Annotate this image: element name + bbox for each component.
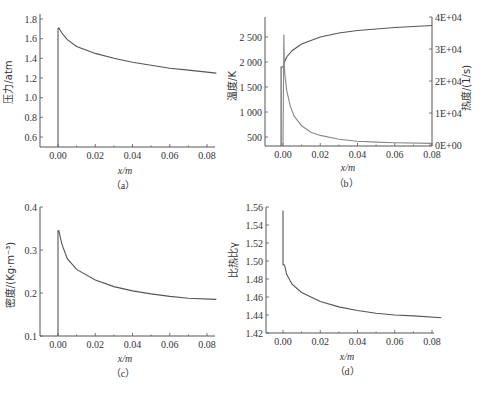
x-tick-label: 0.06 xyxy=(386,336,404,347)
panel-d-ylabel: 比热比γ xyxy=(227,242,239,278)
y-right-tick-label: 0E+00 xyxy=(435,140,462,151)
x-tick-label: 0.02 xyxy=(312,336,330,347)
y-tick-label: 2 000 xyxy=(240,57,263,68)
series-pressure xyxy=(58,28,216,147)
panel-c-plot: 0.000.020.040.060.080.10.20.30.4 xyxy=(25,202,217,351)
x-tick-label: 0.00 xyxy=(274,149,292,160)
panel-b-ylabel-left: 温度/K xyxy=(226,71,238,101)
x-tick-label: 0.00 xyxy=(274,336,292,347)
x-tick-label: 0.06 xyxy=(386,149,404,160)
panel-a-plot: 0.000.020.040.060.080.60.81.01.21.41.61.… xyxy=(25,14,217,162)
y-right-tick-label: 3E+04 xyxy=(435,44,462,55)
panel-d-xlabel: x/m xyxy=(339,351,354,362)
x-tick-label: 0.08 xyxy=(423,149,441,160)
y-tick-label: 500 xyxy=(247,132,262,143)
y-tick-label: 0.4 xyxy=(25,202,38,213)
x-tick-label: 0.04 xyxy=(349,149,367,160)
x-tick-label: 0.00 xyxy=(49,339,67,350)
panel-a-xlabel: x/m xyxy=(117,165,132,176)
y-tick-label: 2 500 xyxy=(240,32,263,43)
y-tick-label: 0.3 xyxy=(25,245,38,256)
x-tick-label: 0.08 xyxy=(198,150,216,161)
y-tick-label: 1.4 xyxy=(25,53,38,64)
y-tick-label: 1.48 xyxy=(246,274,264,285)
panel-c-caption: （c） xyxy=(111,368,135,379)
panel-b-xlabel: x/m xyxy=(340,162,355,173)
x-tick-label: 0.04 xyxy=(124,339,142,350)
y-tick-label: 1.46 xyxy=(246,292,264,303)
series-density xyxy=(58,231,216,336)
x-tick-label: 0.02 xyxy=(87,150,105,161)
x-tick-label: 0.06 xyxy=(161,150,179,161)
y-tick-label: 1.42 xyxy=(246,328,264,339)
y-tick-label: 1.54 xyxy=(246,220,264,231)
y-tick-label: 0.1 xyxy=(25,331,38,342)
y-tick-label: 1.2 xyxy=(25,73,38,84)
x-tick-label: 0.02 xyxy=(87,339,105,350)
panel-b-caption: （b） xyxy=(334,178,359,189)
panel-a: 0.000.020.040.060.080.60.81.01.21.41.61.… xyxy=(2,14,216,192)
y-tick-label: 1 500 xyxy=(240,82,263,93)
y-right-tick-label: 1E+04 xyxy=(435,108,462,119)
x-tick-label: 0.00 xyxy=(49,150,67,161)
y-right-tick-label: 4E+04 xyxy=(435,12,462,23)
y-tick-label: 1.44 xyxy=(246,310,264,321)
y-right-tick-label: 2E+04 xyxy=(435,76,462,87)
panel-b: 0.000.020.040.060.085001 0001 5002 0002 … xyxy=(226,12,472,190)
y-tick-label: 1.50 xyxy=(246,256,264,267)
x-tick-label: 0.08 xyxy=(198,339,216,350)
y-tick-label: 0.2 xyxy=(25,288,38,299)
y-tick-label: 1 000 xyxy=(240,107,263,118)
panel-b-ylabel-right: 热度/(1/s) xyxy=(460,65,472,111)
panel-c: 0.000.020.040.060.080.10.20.30.4 密度/(Kg·… xyxy=(4,202,216,380)
panel-d-plot: 0.000.020.040.060.081.421.441.461.481.50… xyxy=(246,202,442,348)
x-tick-label: 0.08 xyxy=(423,336,441,347)
series-heat_release_rate xyxy=(283,35,432,145)
x-tick-label: 0.04 xyxy=(124,150,142,161)
y-tick-label: 1.8 xyxy=(25,14,38,25)
y-tick-label: 0.8 xyxy=(25,112,38,123)
panel-a-ylabel: 压力/atm xyxy=(2,60,14,103)
x-tick-label: 0.06 xyxy=(161,339,179,350)
y-tick-label: 0.6 xyxy=(25,132,38,143)
x-tick-label: 0.02 xyxy=(312,149,330,160)
y-tick-label: 1.56 xyxy=(246,202,264,213)
y-tick-label: 1.52 xyxy=(246,238,264,249)
series-specific_heat_ratio xyxy=(283,211,441,318)
panel-a-caption: （a） xyxy=(111,180,135,191)
panel-b-plot: 0.000.020.040.060.085001 0001 5002 0002 … xyxy=(240,12,462,161)
panel-d-caption: （d） xyxy=(335,366,360,377)
y-tick-label: 1.0 xyxy=(25,92,38,103)
panel-c-ylabel: 密度/(Kg·m⁻³) xyxy=(4,242,16,308)
figure: 0.000.020.040.060.080.60.81.01.21.41.61.… xyxy=(0,0,484,393)
x-tick-label: 0.04 xyxy=(349,336,367,347)
panel-c-xlabel: x/m xyxy=(117,353,132,364)
panel-d: 0.000.020.040.060.081.421.441.461.481.50… xyxy=(227,202,441,378)
y-tick-label: 1.6 xyxy=(25,33,38,44)
